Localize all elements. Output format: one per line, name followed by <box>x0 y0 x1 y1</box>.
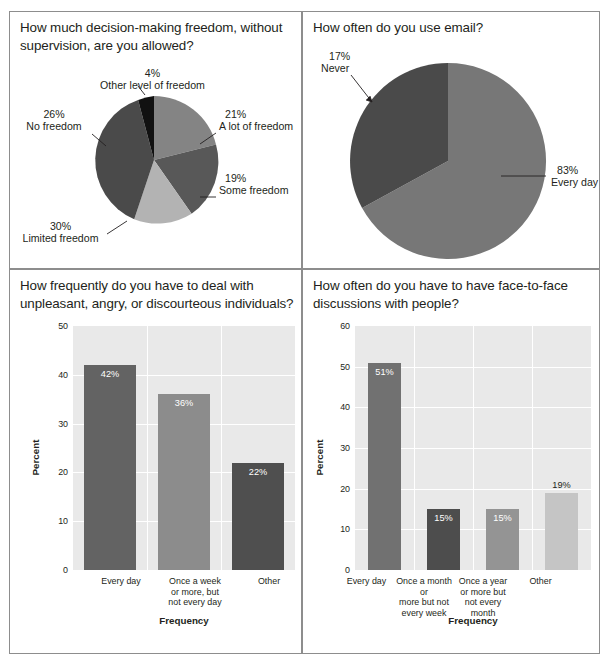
gridline-vertical-2 <box>473 326 474 570</box>
pie-label-every-day: 83% Every day <box>551 164 598 189</box>
pie-label-limited-freedom: 30% Limited freedom <box>13 220 108 245</box>
leader-line-limited-freedom <box>107 221 127 234</box>
axis-title-y-percent: Percent <box>314 416 325 476</box>
leader-arrow-never <box>366 96 372 102</box>
panel-unpleasant-individuals: How frequently do you have to deal with … <box>9 269 302 654</box>
pie-value-limited-freedom: 30% <box>50 220 71 232</box>
pie-label-other-level-of-freedom: 4% Other level of freedom <box>80 67 225 92</box>
bar-value-other: 19% <box>545 480 578 490</box>
bar-chart-unpleasant-individuals: 42% 36% 22% 50 40 30 20 10 0 Every day <box>10 270 301 653</box>
ytick-50: 50 <box>328 362 350 372</box>
bar-once-a-year-or-more: 15% <box>486 509 519 570</box>
plot-area-face-to-face: 51% 15% 15% 19% <box>355 326 591 570</box>
pie-value-never: 17% <box>321 50 350 62</box>
pie-chart-decision-making-freedom: 4% Other level of freedom 26% No freedom… <box>10 12 301 268</box>
bar-chart-face-to-face: 51% 15% 15% 19% 60 50 40 30 20 10 0 <box>303 270 599 653</box>
pie-name-every-day: Every day <box>551 176 598 188</box>
pie-name-some-freedom: Some freedom <box>219 184 288 196</box>
pie-chart-email-use: 17% Never 83% Every day <box>303 12 599 268</box>
panel-decision-making-freedom: How much decision-making freedom, withou… <box>9 11 302 269</box>
axis-title-y-percent: Percent <box>30 416 41 476</box>
ytick-30: 30 <box>328 443 350 453</box>
xtick-every-day: Every day <box>84 576 158 587</box>
axis-title-x-frequency: Frequency <box>355 615 591 626</box>
gridline-vertical-2 <box>221 326 222 570</box>
gridline-vertical-1 <box>147 326 148 570</box>
xtick-every-day-line1: Every day <box>84 576 158 587</box>
ytick-10: 10 <box>328 524 350 534</box>
xtick-other-line1: Other <box>511 576 570 587</box>
ytick-20: 20 <box>46 467 68 477</box>
gridline-vertical-1 <box>414 326 415 570</box>
pie-name-no-freedom: No freedom <box>26 120 81 132</box>
pie-value-other-level-of-freedom: 4% <box>145 67 160 79</box>
ytick-10: 10 <box>46 516 68 526</box>
figure-page: How much decision-making freedom, withou… <box>0 0 609 665</box>
bar-other: 19% <box>545 493 578 570</box>
xtick-every-day-line1: Every day <box>337 576 396 587</box>
ytick-50: 50 <box>46 321 68 331</box>
pie-label-no-freedom: 26% No freedom <box>15 108 93 133</box>
bar-value-once-a-year-or-more: 15% <box>486 513 519 523</box>
pie-value-no-freedom: 26% <box>43 108 64 120</box>
ytick-40: 40 <box>46 370 68 380</box>
ytick-60: 60 <box>328 321 350 331</box>
xtick-once-a-month-or-more: Once a month or more but not every week <box>393 576 455 618</box>
xtick-once-a-month-line1: Once a month or <box>393 576 455 597</box>
bar-once-a-month-or-more: 15% <box>427 509 460 570</box>
pie-label-never: 17% Never <box>321 50 350 75</box>
ytick-0: 0 <box>328 565 350 575</box>
panel-email-use: How often do you use email? 17% Never 83… <box>302 11 600 269</box>
bar-value-other: 22% <box>232 467 284 477</box>
ytick-30: 30 <box>46 419 68 429</box>
xtick-once-a-week-line1: Once a week <box>158 576 232 587</box>
xtick-once-a-year-line2: or more but <box>452 587 514 598</box>
xtick-other: Other <box>232 576 302 587</box>
leader-line-a-lot-of-freedom <box>200 133 216 144</box>
bar-other: 22% <box>232 463 284 570</box>
ytick-40: 40 <box>328 402 350 412</box>
pie-label-some-freedom: 19% Some freedom <box>219 172 288 197</box>
ytick-20: 20 <box>328 484 350 494</box>
xtick-once-a-year-line1: Once a year <box>452 576 514 587</box>
pie-value-every-day: 83% <box>551 164 598 176</box>
xtick-other-line1: Other <box>232 576 302 587</box>
pie-value-some-freedom: 19% <box>219 172 288 184</box>
ytick-0: 0 <box>46 565 68 575</box>
pie-name-other-level-of-freedom: Other level of freedom <box>100 79 205 91</box>
xtick-once-a-week-line2: or more, but <box>158 587 232 598</box>
gridline-vertical-3 <box>532 326 533 570</box>
bar-value-once-a-week-or-more: 36% <box>158 398 210 408</box>
panel-face-to-face: How often do you have to have face-to-fa… <box>302 269 600 654</box>
xtick-every-day: Every day <box>337 576 396 587</box>
plot-area-unpleasant-individuals: 42% 36% 22% <box>73 326 295 570</box>
bar-value-every-day: 51% <box>368 367 401 377</box>
xtick-once-a-year-or-more: Once a year or more but not every month <box>452 576 514 618</box>
pie-name-a-lot-of-freedom: A lot of freedom <box>219 120 293 132</box>
pie-label-a-lot-of-freedom: 21% A lot of freedom <box>219 108 293 133</box>
bar-once-a-week-or-more: 36% <box>158 394 210 570</box>
axis-title-x-frequency: Frequency <box>73 615 295 626</box>
pie-name-never: Never <box>321 62 349 74</box>
xtick-once-a-week-line3: not every day <box>158 597 232 608</box>
pie-value-a-lot-of-freedom: 21% <box>219 108 293 120</box>
bar-every-day: 42% <box>84 365 136 570</box>
pie-name-limited-freedom: Limited freedom <box>23 232 99 244</box>
bar-every-day: 51% <box>368 363 401 570</box>
xtick-once-a-month-line2: more but not <box>393 597 455 608</box>
leader-line-no-freedom <box>92 134 106 146</box>
xtick-other: Other <box>511 576 570 587</box>
bar-value-every-day: 42% <box>84 369 136 379</box>
xtick-once-a-week-or-more: Once a week or more, but not every day <box>158 576 232 608</box>
bar-value-once-a-month-or-more: 15% <box>427 513 460 523</box>
